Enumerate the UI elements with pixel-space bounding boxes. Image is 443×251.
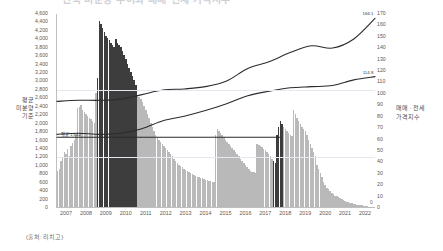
x-axis-tick: 2017 xyxy=(259,210,271,216)
y-axis-left-label-line2: 미분양 xyxy=(4,104,34,112)
series-line xyxy=(57,77,375,135)
y-axis-left-tick: 800 xyxy=(39,172,48,177)
y-axis-right-tick: 70 xyxy=(377,126,383,131)
y-axis-right-tick: 50 xyxy=(377,148,383,153)
x-axis-tick: 2019 xyxy=(299,210,311,216)
plot-area: 평균 1,662 166.1 114.8 0 xyxy=(56,14,375,208)
y-axis-left-tick: 3,200 xyxy=(35,70,48,75)
x-axis-tick: 2021 xyxy=(339,210,351,216)
x-axis-tick: 2016 xyxy=(239,210,251,216)
y-axis-left-tick: 1,000 xyxy=(35,163,48,168)
y-axis-left-tick: 1,200 xyxy=(35,155,48,160)
y-axis-left-tick: 1,400 xyxy=(35,146,48,151)
y-axis-left-tick: 4,400 xyxy=(35,20,48,25)
x-axis-tick: 2009 xyxy=(100,210,112,216)
y-axis-right-tick: 90 xyxy=(377,103,383,108)
y-axis-left-tick: 600 xyxy=(39,180,48,185)
y-axis-right-tick: 150 xyxy=(377,34,386,39)
line-upper-end-label: 166.1 xyxy=(363,11,374,16)
y-axis-left-label-line3: 기준 xyxy=(4,112,34,120)
x-axis-tick: 2011 xyxy=(140,210,152,216)
y-axis-right-tick: 140 xyxy=(377,46,386,51)
y-axis-left-tick: 400 xyxy=(39,189,48,194)
line-lower-end-label: 114.8 xyxy=(363,69,374,74)
line-series xyxy=(57,14,375,207)
y-axis-left-tick: 1,800 xyxy=(35,129,48,134)
chart-title-strip: 전국 미분양 추이와 매매·전세 가격지수 xyxy=(0,0,443,9)
gridline xyxy=(57,157,375,158)
y-axis-right-tick: 100 xyxy=(377,91,386,96)
y-axis-right-tick: 40 xyxy=(377,160,383,165)
source-note: (출처: 리치고) xyxy=(26,232,63,241)
y-axis-right-tick: 20 xyxy=(377,183,383,188)
x-axis-tick: 2018 xyxy=(279,210,291,216)
x-axis-tick: 2007 xyxy=(60,210,72,216)
x-axis-tick: 2012 xyxy=(160,210,172,216)
y-axis-left-tick: 2,200 xyxy=(35,113,48,118)
y-axis-left-tick: 1,600 xyxy=(35,138,48,143)
y-axis-left-tick: 2,600 xyxy=(35,96,48,101)
y-axis-right-tick: 110 xyxy=(377,80,385,85)
y-axis-right-tick: 80 xyxy=(377,114,383,119)
y-axis-left-label-line1: 평균 xyxy=(4,96,34,104)
gridline xyxy=(57,90,375,91)
y-axis-left-tick: 4,600 xyxy=(35,11,48,16)
y-axis-right-label: 매매 · 전세 가격지수 xyxy=(396,104,442,121)
y-axis-right-tick: 30 xyxy=(377,171,383,176)
bar-end-value-label: 0 xyxy=(370,200,373,205)
y-axis-left-tick: 4,200 xyxy=(35,28,48,33)
x-axis-tick: 2013 xyxy=(180,210,192,216)
y-axis-left-tick: 3,800 xyxy=(35,45,48,50)
y-axis-right-tick: 10 xyxy=(377,194,383,199)
y-axis-left-tick: 2,000 xyxy=(35,121,48,126)
y-axis-right-tick: 60 xyxy=(377,137,383,142)
y-axis-left-tick: 4,000 xyxy=(35,37,48,42)
x-axis-tick: 2010 xyxy=(120,210,132,216)
x-axis-tick: 2020 xyxy=(319,210,331,216)
x-axis-tick: 2014 xyxy=(200,210,212,216)
y-axis-left-label: 평균 미분양 기준 xyxy=(4,96,34,120)
y-axis-left-tick: 200 xyxy=(39,197,48,202)
y-axis-left-tick: 3,000 xyxy=(35,79,48,84)
y-axis-left-tick: 3,600 xyxy=(35,54,48,59)
y-axis-right-tick: 170 xyxy=(377,11,386,16)
y-axis-right-tick: 160 xyxy=(377,23,386,28)
y-axis-right-label-line1: 매매 · 전세 xyxy=(396,104,442,113)
y-axis-left-tick: 0 xyxy=(45,205,48,210)
chart-root: 전국 미분양 추이와 매매·전세 가격지수 4,6004,4004,2004,0… xyxy=(0,0,443,251)
x-axis-tick: 2022 xyxy=(359,210,371,216)
x-axis: 2007200820092010201120122013201420152016… xyxy=(56,210,375,222)
y-axis-right-tick: 0 xyxy=(377,205,380,210)
y-axis-left-tick: 3,400 xyxy=(35,62,48,67)
page-title: 전국 미분양 추이와 매매·전세 가격지수 xyxy=(62,0,231,6)
y-axis-left-tick: 2,800 xyxy=(35,87,48,92)
reference-line-label: 평균 1,662 xyxy=(61,131,81,137)
y-axis-right-label-line2: 가격지수 xyxy=(396,113,442,122)
x-axis-tick: 2015 xyxy=(219,210,231,216)
y-axis-right-tick: 130 xyxy=(377,57,386,62)
y-axis-left-tick: 2,400 xyxy=(35,104,48,109)
y-axis-right-tick: 120 xyxy=(377,68,386,73)
x-axis-tick: 2008 xyxy=(80,210,92,216)
